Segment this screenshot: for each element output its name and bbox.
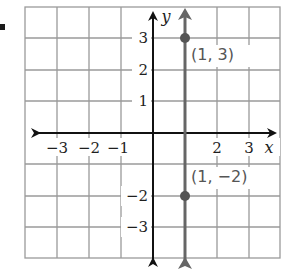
coordinate-graph: −3 −2 −1 2 3 3 2 1 −2 −3 y x (1, 3) (1, … [0, 0, 281, 271]
y-tick-label: 1 [138, 92, 148, 110]
point-1-neg2 [180, 191, 190, 201]
x-tick-label: −3 [46, 139, 68, 157]
point-label: (1, −2) [191, 167, 247, 186]
y-tick-label: 3 [138, 29, 148, 47]
graph-canvas: −3 −2 −1 2 3 3 2 1 −2 −3 y x (1, 3) (1, … [0, 0, 281, 271]
y-axis-label: y [160, 7, 171, 26]
y-tick-label: −3 [126, 218, 148, 236]
y-tick-label: −2 [126, 187, 148, 205]
point-1-3 [180, 33, 190, 43]
x-tick-label: −2 [78, 139, 100, 157]
point-label: (1, 3) [191, 45, 234, 64]
y-tick-label: 2 [138, 61, 148, 79]
x-axis-label: x [264, 138, 273, 157]
bullet-marker [0, 24, 5, 30]
x-tick-label: −1 [107, 139, 129, 157]
x-tick-label: 3 [244, 139, 254, 157]
x-tick-label: 2 [212, 139, 222, 157]
